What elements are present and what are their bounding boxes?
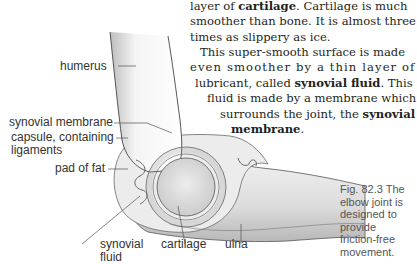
paragraph-2-line-6: membrane. [180, 122, 416, 137]
figure-caption: Fig. 82.3 The elbow joint is designed to… [340, 183, 416, 258]
caption-line-6: movement. [340, 246, 416, 259]
label-cartilage: cartilage [161, 238, 206, 251]
label-humerus: humerus [60, 60, 107, 73]
humerus-head [157, 158, 215, 216]
text-span: . This [380, 76, 412, 90]
text-span: lubricant, called [195, 76, 295, 90]
caption-line-1: Fig. 82.3 The [340, 183, 416, 196]
caption-line-2: elbow joint is [340, 196, 416, 209]
label-ulna: ulna [225, 238, 248, 251]
caption-line-5: friction-free [340, 233, 416, 246]
term-synovial: synovial [363, 107, 415, 121]
term-synovial-fluid: synovial fluid [295, 76, 381, 90]
caption-line-4: provide [340, 221, 416, 234]
label-synovial-membrane: synovial membrane [9, 116, 113, 129]
body-paragraph-1: layer of cartilage. Cartilage is much sm… [190, 0, 416, 45]
label-capsule-line-2: ligaments [11, 144, 62, 157]
text-span: layer of [190, 0, 238, 13]
text-span: surrounds the joint, the [220, 107, 363, 121]
paragraph-2-line-2: even smoother by a thin layer of [180, 60, 416, 75]
caption-line-3: designed to [340, 208, 416, 221]
label-synovial-fluid-line-2: fluid [100, 251, 122, 264]
paragraph-2-line-4: fluid is made by a membrane which [180, 91, 416, 106]
paragraph-1-line-1: layer of cartilage. Cartilage is much [190, 0, 416, 14]
term-membrane: membrane [231, 122, 300, 136]
body-paragraph-2: This super-smooth surface is made even s… [180, 45, 416, 137]
paragraph-2-line-5: surrounds the joint, the synovial [180, 107, 416, 122]
paragraph-1-line-3: times as slippery as ice. [190, 30, 416, 45]
paragraph-1-line-2: smoother than bone. It is almost three [190, 14, 416, 29]
paragraph-2-line-1: This super-smooth surface is made [180, 45, 416, 60]
term-cartilage: cartilage [238, 0, 296, 13]
text-span: . Cartilage is much [296, 0, 407, 13]
paragraph-2-line-3: lubricant, called synovial fluid. This [180, 76, 416, 91]
text-span: . [300, 122, 304, 136]
label-pad-of-fat: pad of fat [55, 162, 105, 175]
